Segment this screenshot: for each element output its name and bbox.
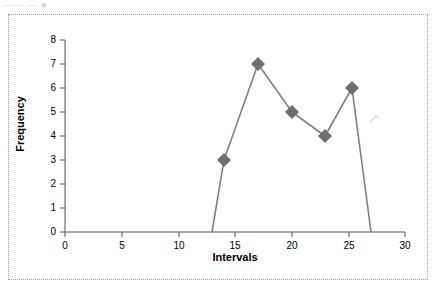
data-point-marker xyxy=(217,153,231,167)
data-point-marker xyxy=(345,81,359,95)
line-chart-plot xyxy=(0,0,436,295)
y-axis xyxy=(60,40,65,232)
data-point-marker xyxy=(251,57,265,71)
data-point-marker xyxy=(318,129,332,143)
data-point-marker xyxy=(285,105,299,119)
figure-page: —— — ■ Frequency Intervals 8 7 6 5 4 3 2… xyxy=(0,0,436,295)
scan-smudge-artifact xyxy=(370,116,379,122)
x-axis xyxy=(65,232,405,237)
